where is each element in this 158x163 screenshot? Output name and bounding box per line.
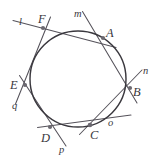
vertex-label-D: D — [41, 132, 50, 145]
vertex-label-A: A — [106, 27, 114, 40]
vertex-dot-A — [101, 36, 105, 40]
line-label-p: p — [59, 145, 64, 156]
line-label-l: l — [19, 17, 22, 28]
figure-canvas — [0, 0, 158, 163]
vertex-dot-F — [41, 26, 45, 30]
vertex-label-B: B — [133, 86, 141, 99]
vertex-dot-B — [128, 86, 132, 90]
tangent-circle-figure: A B C D E F l m n o p q — [0, 0, 158, 163]
tangent-line-l — [13, 21, 116, 48]
inscribed-circle — [30, 31, 126, 127]
line-label-o: o — [108, 118, 113, 129]
line-label-q: q — [12, 101, 17, 112]
vertex-label-C: C — [90, 129, 98, 142]
vertex-label-F: F — [38, 13, 46, 26]
vertex-dot-D — [48, 125, 52, 129]
line-label-m: m — [74, 9, 82, 20]
vertex-dot-E — [23, 83, 27, 87]
line-label-n: n — [143, 66, 148, 77]
vertex-dot-C — [88, 123, 93, 128]
vertex-label-E: E — [10, 79, 18, 92]
